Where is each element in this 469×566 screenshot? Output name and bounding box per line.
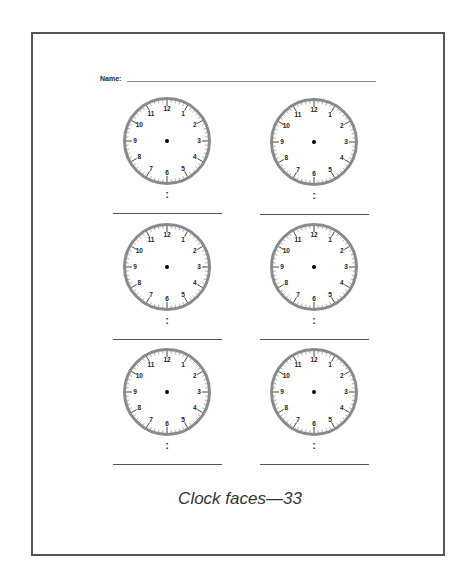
clock-numeral: 8	[284, 154, 288, 161]
time-colon: :	[304, 440, 324, 451]
clock-numeral: 3	[344, 263, 348, 270]
clock-numeral: 8	[137, 404, 141, 411]
clock-face: 121234567891011	[121, 95, 213, 187]
clock-numeral: 4	[193, 279, 197, 286]
clock-numeral: 6	[165, 295, 169, 302]
answer-line[interactable]	[260, 339, 369, 340]
clock-numeral: 12	[163, 105, 171, 112]
clock-center-dot	[165, 390, 169, 394]
clock-numeral: 11	[148, 361, 155, 368]
clock-face: 121234567891011	[268, 96, 360, 188]
answer-line[interactable]	[260, 464, 369, 465]
clock-numeral: 3	[197, 137, 201, 144]
clock-numeral: 4	[193, 404, 197, 411]
clock-numeral: 8	[284, 279, 288, 286]
clock-numeral: 4	[340, 279, 344, 286]
clock-numeral: 7	[296, 291, 300, 298]
clock-numeral: 4	[340, 154, 344, 161]
clock-numeral: 7	[149, 165, 153, 172]
clock-numeral: 5	[181, 416, 185, 423]
clock-center-dot	[312, 140, 316, 144]
clock-numeral: 12	[163, 231, 171, 238]
clock-numeral: 1	[181, 110, 185, 117]
clock-face: 121234567891011	[121, 346, 213, 438]
name-field-line[interactable]	[127, 81, 376, 82]
clock-center-dot	[312, 265, 316, 269]
clock-numeral: 10	[136, 121, 144, 128]
clock-numeral: 1	[328, 111, 332, 118]
time-colon: :	[157, 440, 177, 451]
clock-numeral: 3	[197, 263, 201, 270]
name-label: Name:	[100, 75, 121, 82]
clock-numeral: 9	[133, 388, 137, 395]
clock-numeral: 11	[148, 110, 155, 117]
clock-numeral: 4	[340, 404, 344, 411]
clock-numeral: 6	[165, 169, 169, 176]
answer-line[interactable]	[113, 213, 222, 214]
clock-numeral: 5	[328, 416, 332, 423]
clock-numeral: 6	[312, 420, 316, 427]
clock-numeral: 11	[295, 361, 302, 368]
page-border	[31, 32, 445, 556]
clock-center-dot	[312, 390, 316, 394]
clock-numeral: 10	[136, 372, 144, 379]
clock-numeral: 9	[280, 138, 284, 145]
clock-numeral: 10	[283, 122, 291, 129]
clock-numeral: 10	[283, 247, 291, 254]
clock-face: 121234567891011	[121, 221, 213, 313]
clock-numeral: 7	[296, 416, 300, 423]
clock-numeral: 3	[197, 388, 201, 395]
time-colon: :	[157, 189, 177, 200]
clock-numeral: 12	[310, 231, 318, 238]
clock-numeral: 8	[137, 279, 141, 286]
time-colon: :	[304, 190, 324, 201]
clock-numeral: 1	[328, 361, 332, 368]
clock-numeral: 9	[133, 263, 137, 270]
clock-numeral: 8	[137, 153, 141, 160]
clock-numeral: 10	[136, 247, 144, 254]
clock-numeral: 2	[193, 247, 197, 254]
clock-numeral: 5	[181, 165, 185, 172]
clock-face: 121234567891011	[268, 346, 360, 438]
clock-numeral: 2	[193, 372, 197, 379]
clock-center-dot	[165, 265, 169, 269]
answer-line[interactable]	[113, 339, 222, 340]
clock-numeral: 5	[328, 291, 332, 298]
clock-numeral: 12	[310, 106, 318, 113]
clock-numeral: 9	[280, 263, 284, 270]
time-colon: :	[157, 315, 177, 326]
clock-numeral: 5	[328, 166, 332, 173]
time-colon: :	[304, 315, 324, 326]
clock-numeral: 4	[193, 153, 197, 160]
clock-numeral: 11	[295, 111, 302, 118]
clock-numeral: 3	[344, 388, 348, 395]
clock-numeral: 11	[295, 236, 302, 243]
clock-numeral: 2	[340, 247, 344, 254]
clock-face: 121234567891011	[268, 221, 360, 313]
clock-numeral: 6	[312, 295, 316, 302]
clock-numeral: 12	[163, 356, 171, 363]
clock-numeral: 10	[283, 372, 291, 379]
page-caption: Clock faces—33	[0, 489, 469, 509]
answer-line[interactable]	[113, 464, 222, 465]
clock-numeral: 11	[148, 236, 155, 243]
clock-center-dot	[165, 139, 169, 143]
clock-numeral: 9	[133, 137, 137, 144]
clock-numeral: 7	[296, 166, 300, 173]
clock-numeral: 2	[340, 372, 344, 379]
clock-numeral: 1	[181, 236, 185, 243]
clock-numeral: 1	[328, 236, 332, 243]
clock-numeral: 2	[340, 122, 344, 129]
clock-numeral: 7	[149, 291, 153, 298]
clock-numeral: 5	[181, 291, 185, 298]
clock-numeral: 3	[344, 138, 348, 145]
clock-numeral: 8	[284, 404, 288, 411]
clock-numeral: 12	[310, 356, 318, 363]
answer-line[interactable]	[260, 214, 369, 215]
clock-numeral: 2	[193, 121, 197, 128]
clock-numeral: 9	[280, 388, 284, 395]
clock-numeral: 7	[149, 416, 153, 423]
clock-numeral: 6	[312, 170, 316, 177]
clock-numeral: 1	[181, 361, 185, 368]
clock-numeral: 6	[165, 420, 169, 427]
